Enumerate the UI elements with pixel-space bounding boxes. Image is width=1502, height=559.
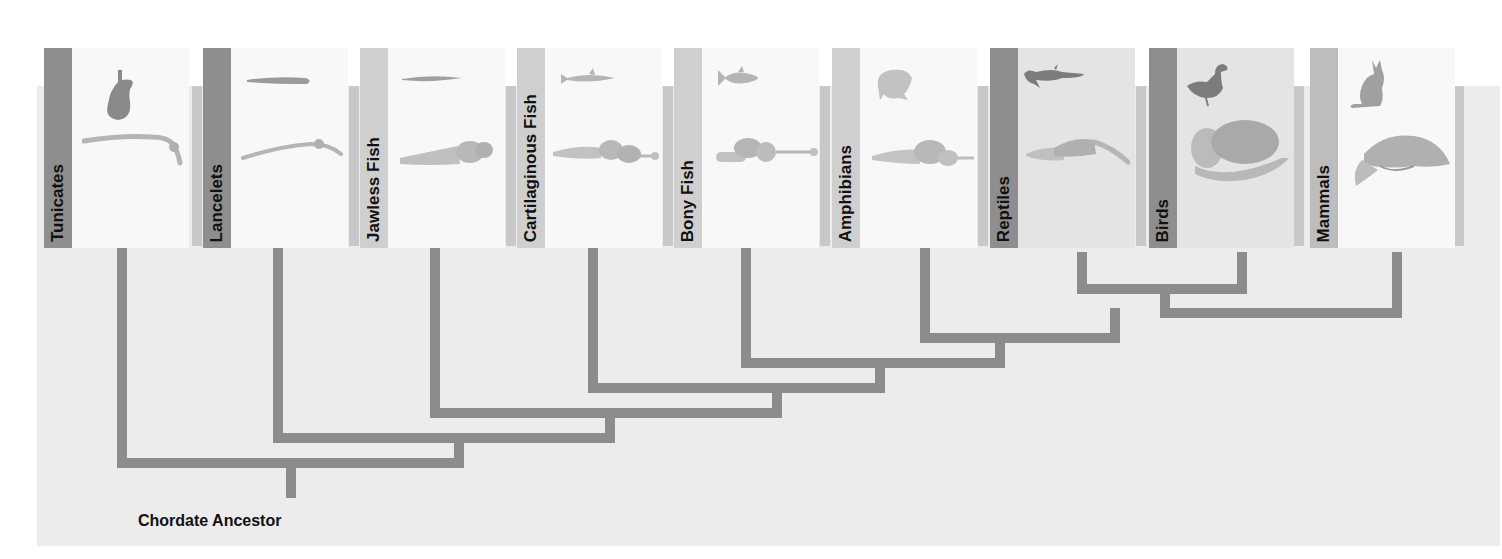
root-label: Chordate Ancestor <box>138 512 281 530</box>
cladogram-branches <box>0 0 1502 559</box>
